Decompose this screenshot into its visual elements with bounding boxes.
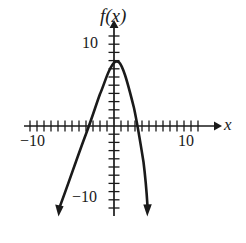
x-axis-title: x	[224, 116, 232, 133]
y-axis-title: f(x)	[100, 6, 126, 25]
parabola-curve	[60, 61, 148, 207]
y-tick-label-negative-10: −10	[72, 189, 97, 205]
coordinate-plane	[0, 0, 246, 243]
x-axis-arrowhead	[214, 122, 222, 131]
x-tick-label-negative-10: −10	[20, 133, 45, 149]
curve-right-arrowhead	[143, 204, 152, 216]
graph-figure: f(x) x 10 −10 −10 10	[0, 0, 246, 243]
curve-left-arrowhead	[55, 205, 63, 217]
y-tick-label-10: 10	[82, 35, 98, 51]
x-tick-label-10: 10	[178, 133, 194, 149]
